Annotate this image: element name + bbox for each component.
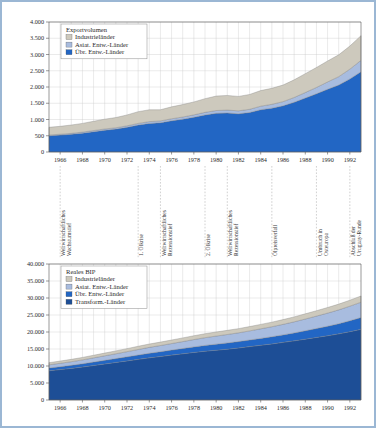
- y-tick-label: 25.000: [27, 311, 44, 318]
- page-frame: 05001.0001.5002.0002.5003.0003.5004.0001…: [0, 0, 376, 428]
- y-tick-label: 0: [41, 396, 44, 403]
- x-tick-label: 1990: [321, 404, 333, 411]
- y-tick-label: 3.000: [30, 51, 44, 58]
- x-tick-label: 1974: [143, 404, 155, 411]
- y-tick-label: 40.000: [27, 260, 44, 267]
- x-tick-labels-exportvolumen: 1966196819701972197419761978198019821984…: [54, 152, 356, 163]
- x-tick-label: 1968: [76, 404, 88, 411]
- y-tick-label: 30.000: [27, 294, 44, 301]
- x-tick-label: 1966: [54, 156, 66, 163]
- y-tick-label: 1.000: [30, 116, 44, 123]
- x-tick-label: 1980: [210, 156, 222, 163]
- x-tick-label: 1980: [210, 404, 222, 411]
- x-tick-label: 1982: [232, 404, 244, 411]
- x-tick-label: 1984: [255, 156, 267, 163]
- y-tick-label: 15.000: [27, 345, 44, 352]
- x-tick-label: 1988: [299, 404, 311, 411]
- legend-exportvolumen: ExportvolumenIndustrieländerAsiat. Entw.…: [61, 24, 147, 59]
- legend-entry-label: Asiat. Entw.-Länder: [75, 283, 129, 290]
- x-tick-label: 1992: [344, 404, 356, 411]
- x-tick-label: 1968: [76, 156, 88, 163]
- legend-entry-label: Industrieländer: [75, 275, 116, 282]
- x-tick-label: 1984: [255, 404, 267, 411]
- y-tick-label: 2.000: [30, 83, 44, 90]
- x-tick-label: 1986: [277, 404, 289, 411]
- legend-swatch: [66, 42, 72, 47]
- y-tick-labels-exportvolumen: 05001.0001.5002.0002.5003.0003.5004.000: [30, 18, 49, 155]
- legend-entry-label: Übr. Entw.-Länder: [75, 48, 125, 55]
- legend-swatch: [66, 35, 72, 40]
- legend-entry-label: Industrieländer: [75, 33, 116, 40]
- event-label-line1: 2. Ölkrise: [205, 233, 211, 256]
- x-tick-label: 1986: [277, 156, 289, 163]
- legend-title: Exportvolumen: [66, 26, 108, 33]
- legend-entry-label: Asiat. Entw.-Länder: [75, 41, 129, 48]
- event-label-line2: Wachstumstief: [66, 223, 72, 256]
- y-tick-label: 1.500: [30, 99, 44, 106]
- y-tick-label: 4.000: [30, 18, 44, 25]
- event-label-line1: Ölpreisverfall: [272, 224, 278, 256]
- y-tick-label: 2.500: [30, 67, 44, 74]
- x-tick-label: 1972: [121, 404, 133, 411]
- x-tick-label: 1992: [344, 156, 356, 163]
- chart-reales-bip: 05.00010.00015.00020.00025.00030.00035.0…: [27, 260, 361, 410]
- event-label-line2: Rezessionstief: [233, 224, 239, 256]
- x-tick-label: 1970: [99, 156, 111, 163]
- legend-swatch: [66, 299, 72, 304]
- x-tick-label: 1972: [121, 156, 133, 163]
- x-tick-label: 1974: [143, 156, 155, 163]
- event-label-line2: Osteuropa: [323, 232, 329, 256]
- y-tick-label: 5.000: [30, 379, 44, 386]
- x-tick-label: 1976: [165, 404, 177, 411]
- legend-swatch: [66, 50, 72, 55]
- timeline-events: WeltwirtschaftlichesWachstumstief1. Ölkr…: [60, 166, 362, 258]
- x-tick-label: 1966: [54, 404, 66, 411]
- figure-svg: 05001.0001.5002.0002.5003.0003.5004.0001…: [2, 0, 376, 428]
- event-label-line2: Uruguay-Runde: [356, 219, 362, 256]
- event-label-line1: 1. Ölkrise: [138, 233, 144, 256]
- legend-entry-label: Transform.-Länder: [75, 298, 126, 305]
- x-tick-label: 1988: [299, 156, 311, 163]
- x-tick-label: 1978: [188, 404, 200, 411]
- y-tick-label: 0: [41, 148, 44, 155]
- event-label-line2: Rezessionstief: [167, 224, 173, 256]
- y-tick-label: 20.000: [27, 328, 44, 335]
- y-tick-labels-reales-bip: 05.00010.00015.00020.00025.00030.00035.0…: [27, 260, 49, 403]
- legend-title: Reales BIP: [66, 268, 96, 275]
- chart-exportvolumen: 05001.0001.5002.0002.5003.0003.5004.0001…: [30, 18, 361, 162]
- y-tick-label: 3.500: [30, 34, 44, 41]
- y-tick-label: 500: [35, 132, 44, 139]
- x-tick-labels-reales-bip: 1966196819701972197419761978198019821984…: [54, 400, 356, 411]
- x-tick-label: 1982: [232, 156, 244, 163]
- legend-entry-label: Übr. Entw.-Länder: [75, 290, 125, 297]
- legend-reales-bip: Reales BIPIndustrieländerAsiat. Entw.-Lä…: [61, 266, 147, 308]
- legend-swatch: [66, 284, 72, 289]
- y-tick-label: 35.000: [27, 277, 44, 284]
- legend-swatch: [66, 277, 72, 282]
- x-tick-label: 1990: [321, 156, 333, 163]
- y-tick-label: 10.000: [27, 362, 44, 369]
- x-tick-label: 1976: [165, 156, 177, 163]
- legend-swatch: [66, 292, 72, 297]
- x-tick-label: 1970: [99, 404, 111, 411]
- x-tick-label: 1978: [188, 156, 200, 163]
- figure-two-stacked-area-charts: 05001.0001.5002.0002.5003.0003.5004.0001…: [2, 0, 376, 428]
